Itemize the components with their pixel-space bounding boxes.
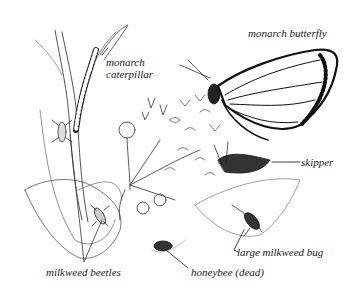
milkweed-illustration: monarch butterfly monarch caterpillar sk…: [0, 0, 360, 295]
right-leaf: [195, 179, 300, 237]
label-large-milkweed-bug: large milkweed bug: [237, 246, 323, 258]
milkweed-flowers: [119, 95, 220, 220]
milkweed-beetle-lower: [91, 205, 109, 226]
milkweed-beetle-upper: [52, 120, 72, 142]
label-monarch-caterpillar-line2: caterpillar: [106, 68, 153, 80]
skipper: [214, 142, 300, 173]
upper-leaf: [96, 25, 128, 60]
label-monarch-caterpillar-line1: monarch: [106, 56, 145, 68]
monarch-butterfly: [180, 50, 337, 140]
label-honeybee: honeybee (dead): [191, 266, 264, 278]
label-milkweed-beetles: milkweed beetles: [46, 266, 121, 278]
large-milkweed-bug: [232, 205, 262, 252]
label-skipper: skipper: [301, 156, 333, 168]
honeybee: [152, 240, 188, 268]
monarch-caterpillar: [76, 48, 108, 130]
label-monarch-butterfly: monarch butterfly: [248, 27, 327, 39]
